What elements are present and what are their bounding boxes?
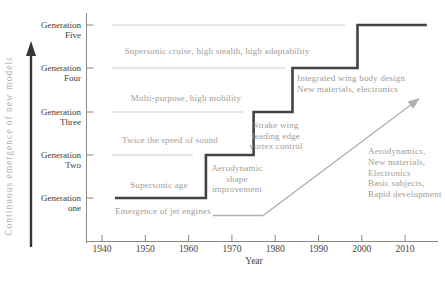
annotation-strake-wing: Strake wingleading edgevortex control	[249, 120, 303, 152]
x-tick-label-1950: 1950	[136, 244, 155, 254]
y-tick-label-generation-4: GenerationFour	[0, 63, 81, 83]
y-tick-label-generation-3: GenerationThree	[0, 107, 81, 127]
y-tick-label-generation-5: GenerationFive	[0, 20, 81, 40]
annotation-twice-speed: Twice the speed of sound	[122, 135, 218, 146]
emergence-arrowhead-icon	[26, 41, 36, 56]
annotation-line: Electronics	[368, 168, 442, 179]
fighter-generations-chart: Continuous emergence of new models Gener…	[0, 0, 445, 282]
y-tick-label-line: Four	[0, 73, 81, 83]
annotation-line: Basic subjects,	[368, 178, 442, 189]
annotation-supersonic-age: Supersonic age	[130, 180, 188, 191]
y-tick-label-line: Five	[0, 30, 81, 40]
annotation-line: Supersonic age	[130, 180, 188, 191]
y-tick-label-generation-1: Generationone	[0, 193, 81, 213]
y-tick-label-line: Generation	[0, 193, 81, 203]
growth-arrowhead-icon	[408, 98, 420, 109]
annotation-line: New materials, electronics	[297, 84, 405, 95]
annotation-line: leading edge	[249, 131, 303, 142]
annotation-line: Twice the speed of sound	[122, 135, 218, 146]
x-tick-label-1970: 1970	[222, 244, 241, 254]
annotation-supersonic-cruise: Supersonic cruise, high stealth, high ad…	[124, 46, 309, 57]
annotation-line: Integrated wing body design	[297, 73, 405, 84]
x-tick-label-1940: 1940	[93, 244, 112, 254]
annotation-line: Aerodynamic	[211, 163, 262, 174]
annotation-jet-engines: Emergence of jet engines	[115, 206, 211, 217]
annotation-line: shape	[211, 174, 262, 185]
annotation-line: Rapid development	[368, 189, 442, 200]
y-tick-label-line: Three	[0, 117, 81, 127]
y-tick-label-line: Two	[0, 160, 81, 170]
annotation-line: Aerodynamics,	[368, 146, 442, 157]
y-tick-label-line: Generation	[0, 20, 81, 30]
x-tick-label-1960: 1960	[179, 244, 198, 254]
annotation-line: Multi-purpose, high mobility	[131, 93, 241, 104]
x-tick-label-1980: 1980	[266, 244, 285, 254]
chart-canvas	[0, 0, 445, 282]
annotation-line: Emergence of jet engines	[115, 206, 211, 217]
annotation-line: Supersonic cruise, high stealth, high ad…	[124, 46, 309, 57]
y-tick-label-line: Generation	[0, 63, 81, 73]
annotation-line: Strake wing	[249, 120, 303, 131]
annotation-aero-shape: Aerodynamicshapeimprovement	[211, 163, 262, 195]
x-tick-label-1990: 1990	[309, 244, 328, 254]
x-tick-label-2010: 2010	[396, 244, 415, 254]
annotation-line: New materials,	[368, 157, 442, 168]
annotation-line: improvement	[211, 184, 262, 195]
annotation-line: vortex control	[249, 141, 303, 152]
y-tick-label-line: one	[0, 203, 81, 213]
annotation-integrated-wing: Integrated wing body designNew materials…	[297, 73, 405, 94]
y-tick-label-line: Generation	[0, 107, 81, 117]
y-tick-label-line: Generation	[0, 150, 81, 160]
annotation-multi-purpose: Multi-purpose, high mobility	[131, 93, 241, 104]
x-tick-label-2000: 2000	[352, 244, 371, 254]
y-tick-label-generation-2: GenerationTwo	[0, 150, 81, 170]
annotation-modern-tech: Aerodynamics,New materials,ElectronicsBa…	[368, 146, 442, 200]
x-axis-label: Year	[245, 256, 263, 266]
